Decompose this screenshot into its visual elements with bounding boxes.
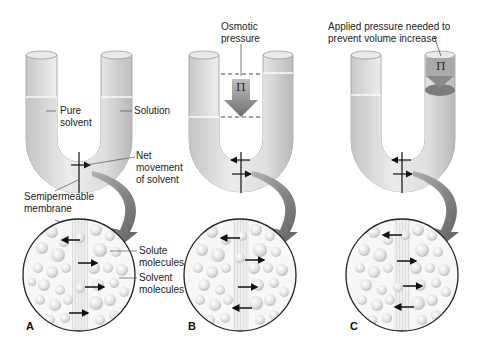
label-of-solvent: of solvent: [136, 174, 179, 186]
label-solute: Solute: [139, 245, 167, 257]
pi-symbol-c: Π: [436, 61, 446, 73]
panel-letter-c: C: [350, 320, 358, 332]
label-pure: Pure: [60, 105, 81, 117]
label-solvent-mol: Solvent: [139, 272, 172, 284]
label-solvent-molecules: molecules: [139, 284, 184, 296]
label-pressure: pressure: [221, 33, 260, 45]
label-semipermeable: Semipermeable: [24, 191, 94, 203]
label-membrane: membrane: [24, 203, 72, 215]
label-solvent: solvent: [60, 117, 92, 129]
panel-letter-b: B: [188, 320, 196, 332]
label-prevent-volume: prevent volume increase: [328, 33, 437, 45]
osmosis-diagram: Π Π Pure solvent Solution Net movement o…: [0, 0, 483, 355]
label-solute-molecules: molecules: [139, 257, 184, 269]
label-applied-pressure: Applied pressure needed to: [328, 21, 450, 33]
panel-letter-a: A: [26, 320, 34, 332]
label-movement: movement: [136, 162, 183, 174]
label-solution: Solution: [134, 105, 170, 117]
diagram-canvas: [0, 0, 483, 355]
pi-symbol-b: Π: [236, 82, 246, 94]
u-tube-b: [189, 44, 293, 193]
label-net: Net: [136, 150, 152, 162]
label-osmotic: Osmotic: [221, 21, 258, 33]
